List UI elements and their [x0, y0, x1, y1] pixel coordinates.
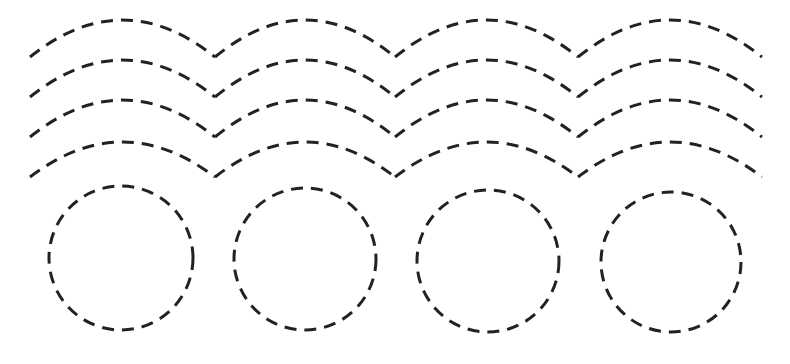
dashed-arch-rows	[30, 20, 762, 177]
arch-row-1	[30, 20, 762, 57]
dashed-arch	[30, 100, 215, 137]
dashed-arch	[395, 60, 578, 97]
dashed-arch	[30, 20, 215, 57]
dashed-arch	[215, 142, 395, 177]
dashed-arch	[215, 20, 395, 57]
dashed-circle	[601, 192, 741, 332]
dashed-arch	[215, 100, 395, 137]
dashed-circle	[49, 186, 193, 330]
dashed-arch	[30, 142, 215, 177]
tracing-worksheet	[0, 0, 790, 364]
dashed-arch	[578, 60, 762, 97]
tracing-canvas	[0, 0, 790, 364]
dashed-arch	[578, 142, 762, 177]
arch-row-2	[30, 60, 762, 97]
dashed-arch	[395, 100, 578, 137]
dashed-arch	[395, 20, 578, 57]
dashed-arch	[395, 142, 578, 177]
dashed-arch	[30, 60, 215, 97]
dashed-arch	[578, 20, 762, 57]
dashed-arch	[215, 60, 395, 97]
dashed-circle	[234, 188, 376, 330]
dashed-circles	[49, 186, 741, 332]
arch-row-3	[30, 100, 762, 137]
dashed-arch	[578, 100, 762, 137]
arch-row-4	[30, 142, 762, 177]
dashed-circle	[417, 190, 559, 332]
